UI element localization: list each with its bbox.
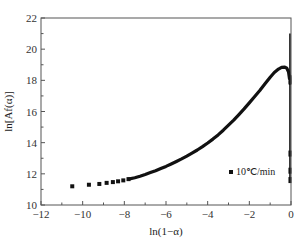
y-tick-label: 22 bbox=[26, 12, 37, 24]
y-tick-label: 18 bbox=[26, 74, 38, 86]
y-tick-label: 14 bbox=[26, 137, 38, 149]
y-tick-label: 20 bbox=[26, 43, 38, 55]
legend-label: 10℃/min bbox=[236, 166, 275, 177]
data-point-marker bbox=[97, 182, 101, 186]
legend-square-marker-icon bbox=[229, 170, 233, 174]
y-axis-ticks: 10121416182022 bbox=[26, 12, 45, 211]
y-axis-title: ln[Af(α)] bbox=[2, 91, 15, 132]
x-tick-label: −2 bbox=[243, 208, 255, 220]
x-tick-label: −6 bbox=[160, 208, 172, 220]
x-tick-label: −12 bbox=[32, 208, 49, 220]
x-tick-label: 0 bbox=[288, 208, 294, 220]
x-axis-title: ln(1−α) bbox=[149, 225, 183, 238]
x-tick-label: −10 bbox=[74, 208, 92, 220]
legend: 10℃/min bbox=[229, 166, 275, 177]
data-point-marker bbox=[116, 179, 120, 183]
chart-canvas: 10121416182022 −12−10−8−6−4−20 ln(1−α) l… bbox=[0, 0, 302, 243]
x-tick-label: −8 bbox=[118, 208, 130, 220]
x-axis-ticks: −12−10−8−6−4−20 bbox=[32, 201, 294, 220]
y-tick-label: 16 bbox=[26, 106, 38, 118]
data-point-marker bbox=[111, 180, 115, 184]
y-tick-label: 12 bbox=[26, 168, 37, 180]
data-point-marker bbox=[87, 183, 91, 187]
data-point-marker bbox=[105, 181, 109, 185]
x-tick-label: −4 bbox=[202, 208, 214, 220]
data-curve bbox=[129, 67, 291, 179]
data-point-marker bbox=[70, 184, 74, 188]
data-point-marker bbox=[121, 178, 125, 182]
